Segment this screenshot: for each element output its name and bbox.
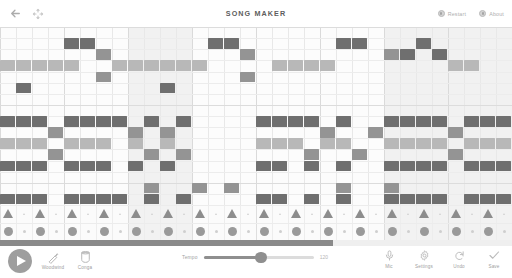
note-cell[interactable]: [400, 138, 415, 149]
note-cell[interactable]: [448, 127, 463, 138]
note-cell[interactable]: [496, 194, 511, 205]
note-cell[interactable]: [304, 60, 319, 71]
note-cell[interactable]: [464, 161, 479, 172]
note-cell[interactable]: [16, 116, 31, 127]
percussion-cell-circle[interactable]: [480, 223, 496, 241]
note-cell[interactable]: [0, 161, 15, 172]
percussion-cell-circle[interactable]: [80, 223, 96, 241]
percussion-cell-circle[interactable]: [16, 223, 32, 241]
note-cell[interactable]: [16, 60, 31, 71]
note-cell[interactable]: [112, 194, 127, 205]
note-cell[interactable]: [256, 161, 271, 172]
note-cell[interactable]: [192, 183, 207, 194]
percussion-cell-triangle[interactable]: [320, 205, 336, 223]
note-cell[interactable]: [64, 60, 79, 71]
note-cell[interactable]: [160, 60, 175, 71]
note-cell[interactable]: [432, 138, 447, 149]
note-cell[interactable]: [64, 116, 79, 127]
note-cell[interactable]: [400, 49, 415, 60]
note-cell[interactable]: [128, 138, 143, 149]
percussion-cell-circle[interactable]: [384, 223, 400, 241]
note-cell[interactable]: [384, 183, 399, 194]
percussion-cell-triangle[interactable]: [64, 205, 80, 223]
undo-button[interactable]: Undo: [447, 248, 471, 269]
percussion-cell-circle[interactable]: [96, 223, 112, 241]
percussion-cell-circle[interactable]: [144, 223, 160, 241]
note-cell[interactable]: [272, 116, 287, 127]
note-cell[interactable]: [496, 161, 511, 172]
note-cell[interactable]: [384, 161, 399, 172]
percussion-cell-circle[interactable]: [448, 223, 464, 241]
note-cell[interactable]: [128, 127, 143, 138]
note-cell[interactable]: [16, 194, 31, 205]
note-cell[interactable]: [160, 138, 175, 149]
note-cell[interactable]: [384, 49, 399, 60]
percussion-cell-circle[interactable]: [464, 223, 480, 241]
percussion-cell-triangle[interactable]: [16, 205, 32, 223]
note-cell[interactable]: [64, 194, 79, 205]
about-button[interactable]: About: [479, 10, 504, 17]
percussion-cell-triangle[interactable]: [336, 205, 352, 223]
note-cell[interactable]: [176, 149, 191, 160]
percussion-cell-circle[interactable]: [256, 223, 272, 241]
note-cell[interactable]: [336, 194, 351, 205]
note-cell[interactable]: [304, 149, 319, 160]
note-cell[interactable]: [64, 161, 79, 172]
note-cell[interactable]: [288, 138, 303, 149]
percussion-cell-triangle[interactable]: [432, 205, 448, 223]
percussion-cell-triangle[interactable]: [256, 205, 272, 223]
note-cell[interactable]: [160, 83, 175, 94]
note-cell[interactable]: [384, 138, 399, 149]
note-cell[interactable]: [288, 60, 303, 71]
instrument-picker-percussion[interactable]: Conga: [68, 249, 102, 270]
note-cell[interactable]: [96, 194, 111, 205]
note-cell[interactable]: [272, 138, 287, 149]
note-cell[interactable]: [32, 138, 47, 149]
note-cell[interactable]: [0, 138, 15, 149]
fullscreen-expand-icon[interactable]: [31, 7, 44, 20]
note-cell[interactable]: [336, 116, 351, 127]
note-cell[interactable]: [384, 116, 399, 127]
note-cell[interactable]: [288, 116, 303, 127]
note-cell[interactable]: [80, 138, 95, 149]
percussion-cell-circle[interactable]: [400, 223, 416, 241]
percussion-cell-circle[interactable]: [320, 223, 336, 241]
note-cell[interactable]: [128, 161, 143, 172]
note-cell[interactable]: [320, 60, 335, 71]
percussion-cell-circle[interactable]: [272, 223, 288, 241]
note-cell[interactable]: [256, 138, 271, 149]
note-cell[interactable]: [64, 138, 79, 149]
note-cell[interactable]: [464, 60, 479, 71]
percussion-cell-triangle[interactable]: [48, 205, 64, 223]
note-cell[interactable]: [336, 38, 351, 49]
instrument-picker-melody[interactable]: Woodwind: [36, 249, 70, 270]
note-cell[interactable]: [16, 138, 31, 149]
percussion-cell-circle[interactable]: [368, 223, 384, 241]
play-button[interactable]: [8, 249, 32, 273]
note-cell[interactable]: [64, 38, 79, 49]
percussion-cell-triangle[interactable]: [416, 205, 432, 223]
note-cell[interactable]: [496, 116, 511, 127]
percussion-cell-triangle[interactable]: [160, 205, 176, 223]
percussion-cell-triangle[interactable]: [208, 205, 224, 223]
settings-button[interactable]: Settings: [412, 248, 436, 269]
note-cell[interactable]: [32, 161, 47, 172]
note-cell[interactable]: [80, 116, 95, 127]
note-cell[interactable]: [128, 60, 143, 71]
note-cell[interactable]: [320, 138, 335, 149]
percussion-cell-triangle[interactable]: [496, 205, 512, 223]
note-cell[interactable]: [16, 161, 31, 172]
percussion-cell-circle[interactable]: [496, 223, 512, 241]
note-cell[interactable]: [416, 38, 431, 49]
note-cell[interactable]: [96, 49, 111, 60]
percussion-cell-circle[interactable]: [112, 223, 128, 241]
percussion-cell-circle[interactable]: [160, 223, 176, 241]
tempo-control[interactable]: Tempo 120: [182, 255, 328, 260]
note-cell[interactable]: [400, 161, 415, 172]
percussion-cell-triangle[interactable]: [480, 205, 496, 223]
percussion-cell-circle[interactable]: [432, 223, 448, 241]
note-cell[interactable]: [96, 116, 111, 127]
note-cell[interactable]: [480, 194, 495, 205]
percussion-cell-triangle[interactable]: [448, 205, 464, 223]
percussion-cell-triangle[interactable]: [192, 205, 208, 223]
